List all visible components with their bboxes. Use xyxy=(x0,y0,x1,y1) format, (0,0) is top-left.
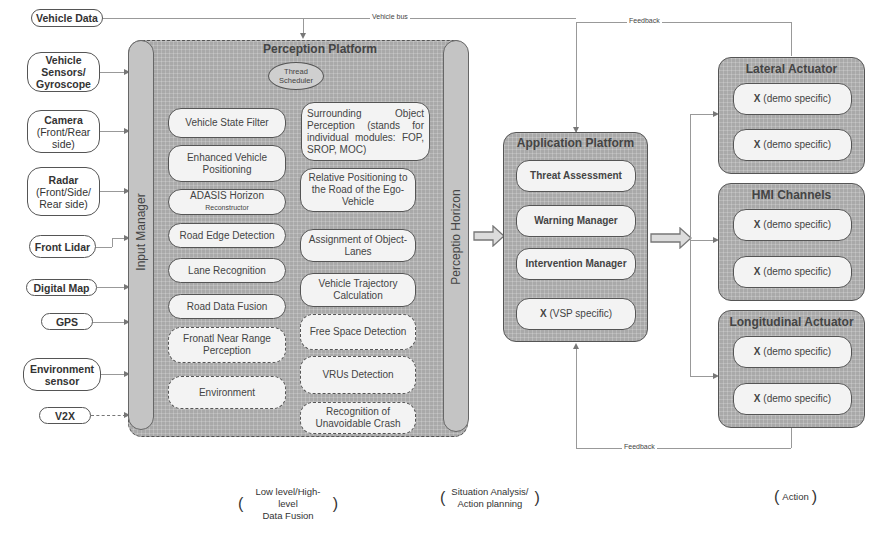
vehicle-bus-drop xyxy=(303,18,304,34)
module-relative-positioning: Relative Positioning to the Road of the … xyxy=(300,168,416,212)
module-unavoidable-crash: Recognition of Unavoidable Crash xyxy=(300,402,416,434)
vehicle-bus-line xyxy=(103,18,576,19)
connector-radar xyxy=(100,191,126,192)
module-warning-manager: Warning Manager xyxy=(516,205,636,237)
input-vehicle-sensors: Vehicle Sensors/ Gyroscope xyxy=(27,52,100,92)
arrowhead-icon xyxy=(300,33,306,39)
actuator-longitudinal-title: Longitudinal Actuator xyxy=(718,315,865,329)
actuator-item: X (demo specific) xyxy=(733,336,852,368)
input-label: Camera xyxy=(44,114,83,126)
actuator-item: X (demo specific) xyxy=(733,129,852,161)
phase-data-fusion: ( Low level/High-level Data Fusion ) xyxy=(238,486,338,522)
module-lane-recognition: Lane Recognition xyxy=(168,258,286,283)
module-vehicle-trajectory: Vehicle Trajectory Calculation xyxy=(300,273,416,307)
module-road-edge-detection: Road Edge Detection xyxy=(168,223,286,248)
phase-action: ( Action ) xyxy=(774,488,834,506)
connector-environment xyxy=(101,374,126,375)
connector-sensors xyxy=(100,72,126,73)
input-front-lidar: Front Lidar xyxy=(29,235,96,258)
feedback-top-right xyxy=(791,22,792,56)
input-sub: (Front/Side/ Rear side) xyxy=(28,186,99,210)
module-road-data-fusion: Road Data Fusion xyxy=(168,294,286,319)
module-frontal-near-range: Fronatl Near Range Perception xyxy=(168,327,286,363)
module-intervention-manager: Intervention Manager xyxy=(516,248,636,280)
actuator-item: X (demo specific) xyxy=(733,256,852,288)
input-label: Front Lidar xyxy=(35,241,90,253)
vehicle-bus-label: Vehicle bus xyxy=(370,13,410,20)
connector-map xyxy=(97,287,126,288)
input-label: V2X xyxy=(55,410,75,422)
connector-v2x xyxy=(91,415,126,416)
input-digital-map: Digital Map xyxy=(26,279,97,296)
input-label: Environment sensor xyxy=(24,363,100,387)
feedback-top-line xyxy=(576,22,791,23)
module-assignment-object-lanes: Assignment of Object-Lanes xyxy=(300,229,416,262)
actuator-item: X (demo specific) xyxy=(733,83,852,115)
perceptio-horizon-label: Perceptio Horizon xyxy=(449,187,463,287)
perception-platform-title: Perception Platform xyxy=(200,42,440,56)
module-vrus-detection: VRUs Detection xyxy=(300,356,416,394)
module-environment: Environment xyxy=(168,376,286,409)
input-gps: GPS xyxy=(41,313,93,330)
arrowhead-icon xyxy=(573,343,579,349)
feedback-top-left xyxy=(576,22,577,135)
input-label: Digital Map xyxy=(33,282,89,294)
input-label: Vehicle Sensors/ Gyroscope xyxy=(28,54,99,90)
feedback-bottom-left xyxy=(576,348,577,448)
module-threat-assessment: Threat Assessment xyxy=(516,160,636,192)
input-camera: Camera (Front/Rear side) xyxy=(27,110,100,153)
input-label: Vehicle Data xyxy=(36,12,98,24)
input-environment-sensor: Environment sensor xyxy=(23,358,101,391)
application-platform-title: Application Platform xyxy=(503,136,648,150)
input-v2x: V2X xyxy=(39,407,91,424)
phase-situation-analysis: ( Situation Analysis/ Action planning ) xyxy=(440,486,550,510)
module-enhanced-vehicle-positioning: Enhanced Vehicle Positioning xyxy=(168,145,286,182)
connector-gps xyxy=(93,322,126,323)
feedback-bottom-line xyxy=(576,448,791,449)
connector-lidar-a xyxy=(96,247,112,248)
input-sub: (Front/Rear side) xyxy=(28,126,99,150)
module-surrounding-object-perception: Surrounding Object Perception (stands fo… xyxy=(301,102,430,161)
module-vehicle-state-filter: Vehicle State Filter xyxy=(168,108,286,138)
thread-scheduler-label: Thread Scheduler xyxy=(279,67,313,85)
module-adasis-horizon: ADASIS Horizon Reconstructor xyxy=(168,189,286,215)
thread-scheduler: Thread Scheduler xyxy=(268,62,324,90)
feedback-bottom-label: Feedback xyxy=(622,443,657,450)
input-manager-label: Input Manager xyxy=(134,182,148,282)
input-vehicle-data: Vehicle Data xyxy=(31,9,103,27)
connector-lidar-b xyxy=(112,238,113,247)
distribution-line xyxy=(690,114,691,377)
connector-camera xyxy=(100,131,126,132)
input-label: GPS xyxy=(56,316,78,328)
module-free-space-detection: Free Space Detection xyxy=(300,314,416,350)
actuator-item: X (demo specific) xyxy=(733,209,852,241)
feedback-top-label: Feedback xyxy=(627,17,662,24)
actuator-item: X (demo specific) xyxy=(733,383,852,415)
flow-arrow-icon xyxy=(473,225,505,247)
input-label: Radar xyxy=(49,174,79,186)
feedback-bottom-right xyxy=(791,428,792,448)
flow-arrow-icon xyxy=(650,227,692,249)
actuator-lateral-title: Lateral Actuator xyxy=(718,62,865,76)
input-radar: Radar (Front/Side/ Rear side) xyxy=(27,167,100,216)
actuator-hmi-title: HMI Channels xyxy=(718,188,865,202)
module-vsp-specific: X (VSP specific) xyxy=(516,298,636,330)
